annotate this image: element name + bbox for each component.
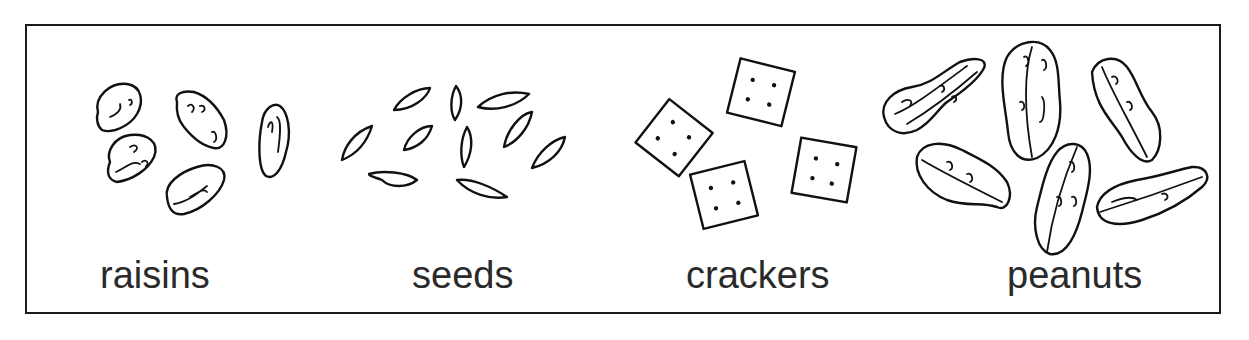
raisins-group: raisins [27, 26, 327, 312]
ingredients-frame: raisins seeds [25, 24, 1221, 314]
peanuts-label: peanuts [1007, 254, 1142, 297]
peanuts-group: peanuts [887, 26, 1223, 312]
seeds-label: seeds [412, 254, 513, 297]
crackers-label: crackers [686, 254, 830, 297]
seeds-group: seeds [327, 26, 627, 312]
crackers-group: crackers [627, 26, 887, 312]
raisins-label: raisins [100, 254, 210, 297]
